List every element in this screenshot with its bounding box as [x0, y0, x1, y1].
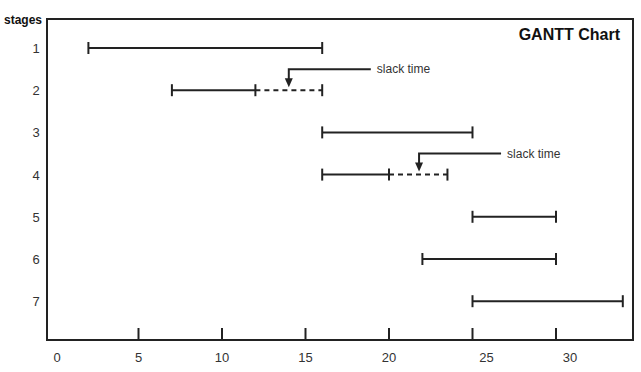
plot-frame — [47, 19, 633, 340]
x-tick-label: 25 — [479, 350, 493, 365]
x-tick-label: 20 — [382, 350, 396, 365]
annotation-arrowhead — [285, 78, 293, 87]
x-tick-label: 10 — [215, 350, 229, 365]
x-tick-label: 0 — [53, 350, 60, 365]
x-tick-label: 5 — [135, 350, 142, 365]
x-tick-label: 15 — [298, 350, 312, 365]
x-axis: 051015202530 — [53, 328, 577, 365]
annotation-text: slack time — [507, 147, 561, 161]
stage-label: 2 — [32, 83, 39, 98]
stage-label: 1 — [32, 41, 39, 56]
y-axis-label: stages — [4, 13, 42, 27]
stage-label: 6 — [32, 252, 39, 267]
stage-label: 7 — [32, 294, 39, 309]
chart-title: GANTT Chart — [519, 26, 621, 43]
stage-label: 4 — [32, 168, 39, 183]
annotation-leader — [419, 154, 501, 165]
annotations: slack timeslack time — [285, 62, 561, 171]
annotation-arrowhead — [415, 163, 423, 172]
stage-label: 3 — [32, 125, 39, 140]
stage-labels: 1234567 — [32, 41, 39, 309]
x-tick-label: 30 — [563, 350, 577, 365]
gantt-chart: stages GANTT Chart 051015202530 1234567 … — [0, 0, 641, 372]
bars — [88, 42, 622, 307]
annotation-leader — [289, 69, 371, 80]
stage-label: 5 — [32, 210, 39, 225]
annotation-text: slack time — [377, 62, 431, 76]
